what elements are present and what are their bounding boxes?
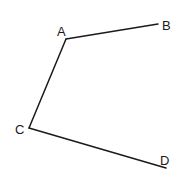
point-label-c: C [15,122,24,137]
segment-ac [29,39,66,128]
point-label-b: B [162,18,171,33]
point-label-d: D [160,153,169,168]
segment-ab [66,24,158,39]
geometry-diagram: A B C D [0,0,182,182]
point-label-a: A [57,24,66,39]
segment-cd [29,128,166,168]
